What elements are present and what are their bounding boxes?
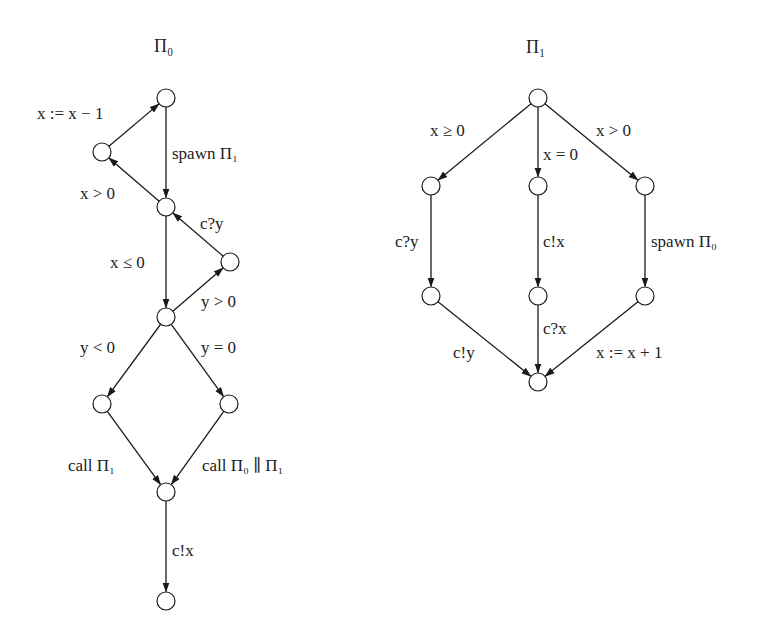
state-node-n8 — [157, 592, 175, 610]
edge-label: y > 0 — [201, 293, 236, 310]
edge-label: spawn Π₀ — [651, 233, 717, 250]
state-node-m4 — [422, 287, 440, 305]
diagram-title-pi1: Π₁ — [526, 38, 545, 56]
edges-layer — [107, 104, 645, 592]
state-node-m5 — [529, 287, 547, 305]
edge-m6-m7 — [545, 302, 638, 376]
edge-m0-m1 — [438, 104, 531, 180]
state-node-m2 — [529, 177, 547, 195]
state-node-n0 — [157, 89, 175, 107]
edge-label: c!x — [172, 542, 194, 559]
state-node-m7 — [529, 373, 547, 391]
edge-n5-n7 — [107, 411, 160, 484]
edge-label: c!y — [453, 344, 475, 361]
state-node-m1 — [422, 177, 440, 195]
edge-m0-m3 — [545, 104, 638, 180]
state-node-n2 — [157, 198, 175, 216]
diagram-title-pi0: Π₀ — [154, 37, 173, 55]
edge-n4-n5 — [108, 324, 161, 396]
edge-label: c!x — [543, 233, 565, 250]
edge-label: x > 0 — [596, 122, 631, 139]
edge-label: x := x + 1 — [596, 344, 662, 361]
diagram-canvas: Π₀x := x − 1spawn Π₁x > 0c?yx ≤ 0y > 0y … — [0, 0, 775, 642]
edge-label: call Π₁ — [68, 457, 115, 474]
state-node-m0 — [529, 89, 547, 107]
state-node-n3 — [221, 253, 239, 271]
edge-label: c?y — [200, 215, 224, 232]
state-node-n4 — [157, 308, 175, 326]
edge-n1-n0 — [109, 104, 159, 146]
state-node-n6 — [220, 395, 238, 413]
state-node-m3 — [636, 177, 654, 195]
edge-label: x := x − 1 — [37, 105, 103, 122]
state-graphs — [0, 0, 775, 642]
edge-n2-n1 — [109, 158, 159, 201]
edge-label: y < 0 — [80, 339, 115, 356]
edge-label: x ≤ 0 — [110, 254, 145, 271]
edge-label: c?y — [395, 233, 419, 250]
edge-label: x ≥ 0 — [430, 122, 465, 139]
state-node-n5 — [93, 395, 111, 413]
edge-m4-m7 — [438, 302, 531, 376]
edge-label: spawn Π₁ — [172, 145, 238, 162]
state-node-n1 — [93, 143, 111, 161]
edge-n4-n6 — [171, 324, 223, 396]
edge-label: y = 0 — [201, 339, 236, 356]
state-node-n7 — [157, 483, 175, 501]
nodes-layer — [93, 89, 654, 610]
state-node-m6 — [636, 287, 654, 305]
edge-label: c?x — [543, 320, 567, 337]
edge-label: x = 0 — [543, 146, 578, 163]
edge-label: x > 0 — [80, 185, 115, 202]
edge-label: call Π₀ ∥ Π₁ — [202, 457, 284, 474]
